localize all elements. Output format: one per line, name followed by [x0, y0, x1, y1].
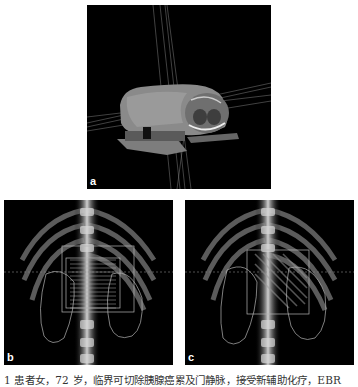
- figure-panel-b: b: [4, 200, 173, 365]
- figure-caption: 1 患者女，72 岁，临界可切除胰腺癌累及门静脉，接受新辅助化疗，EBR: [4, 372, 358, 387]
- drr-image-c: [185, 200, 354, 365]
- panel-label-c: c: [188, 352, 194, 363]
- volume-render-image: [87, 5, 271, 189]
- figure-panel-c: c: [185, 200, 354, 365]
- panel-label-b: b: [7, 352, 14, 363]
- panel-label-a: a: [90, 176, 96, 187]
- drr-image-b: [4, 200, 173, 365]
- figure-panel-a: a: [87, 5, 271, 189]
